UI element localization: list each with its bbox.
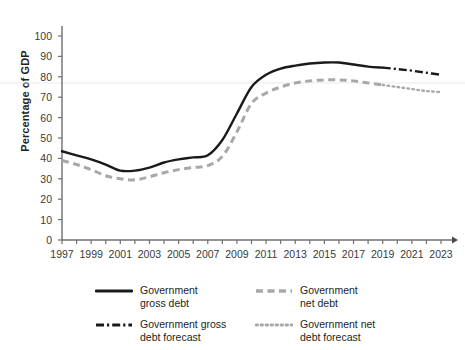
y-axis-tick-label: 90	[26, 51, 52, 62]
y-axis-tick-label: 60	[26, 113, 52, 124]
legend-item-gross-debt[interactable]: Government gross debt	[95, 278, 198, 309]
y-axis-tick-label: 50	[26, 133, 52, 144]
legend-swatch-dotted-line	[255, 312, 293, 338]
legend-label: Government gross debt forecast	[140, 312, 226, 343]
series-line	[62, 80, 383, 180]
y-axis-tick-label: 100	[26, 31, 52, 42]
series-line	[383, 85, 441, 92]
legend-item-net-debt[interactable]: Government net debt	[255, 278, 358, 309]
y-axis-tick-label: 10	[26, 215, 52, 226]
y-axis-tick-label: 30	[26, 174, 52, 185]
legend-item-net-debt-forecast[interactable]: Government net debt forecast	[255, 312, 375, 343]
plot-area	[0, 0, 465, 270]
legend-label: Government net debt	[300, 278, 358, 309]
legend-item-gross-debt-forecast[interactable]: Government gross debt forecast	[95, 312, 226, 343]
legend-label: Government gross debt	[140, 278, 198, 309]
chart-legend: Government gross debt Government net deb…	[0, 276, 465, 350]
series-line	[383, 68, 441, 75]
legend-swatch-solid-line	[95, 278, 133, 304]
x-axis-arrow	[452, 237, 458, 244]
chart-canvas	[0, 0, 465, 270]
y-axis-tick-label: 70	[26, 92, 52, 103]
legend-swatch-dash-dot-line	[95, 312, 133, 338]
y-axis-tick-label: 20	[26, 194, 52, 205]
y-axis-tick-label: 40	[26, 153, 52, 164]
legend-label: Government net debt forecast	[300, 312, 375, 343]
chart-figure: Percentage of GDP 0102030405060708090100…	[0, 0, 465, 350]
legend-swatch-dashed-line	[255, 278, 293, 304]
x-axis-tick-label: 2023	[424, 249, 458, 260]
y-axis-tick-label: 0	[26, 235, 52, 246]
y-axis-tick-label: 80	[26, 72, 52, 83]
